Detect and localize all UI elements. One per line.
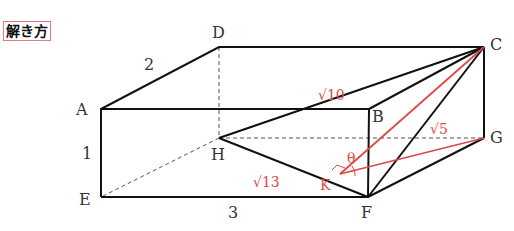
label-theta: θ — [347, 150, 355, 166]
label-AE-length: 1 — [82, 144, 92, 163]
label-F: F — [361, 203, 372, 222]
label-HK-length: √13 — [253, 174, 280, 190]
label-AD-length: 2 — [144, 55, 154, 74]
label-CG-length: √5 — [430, 121, 448, 137]
label-E: E — [79, 190, 91, 209]
cuboid-diagram: A B C D E F G H K 2 1 3 √10 √5 √13 θ — [0, 0, 514, 231]
label-B: B — [372, 107, 384, 126]
label-K: K — [320, 177, 331, 193]
label-C: C — [490, 35, 502, 54]
label-CH-length: √10 — [318, 87, 345, 103]
label-H: H — [211, 145, 225, 164]
label-A: A — [75, 100, 88, 119]
label-G: G — [490, 128, 503, 147]
label-EF-length: 3 — [228, 203, 238, 222]
label-D: D — [212, 23, 225, 42]
visible-edges — [101, 47, 484, 197]
